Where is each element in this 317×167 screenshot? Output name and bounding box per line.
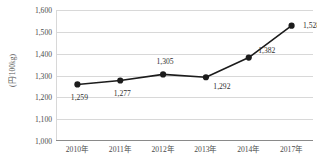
y-axis-tick-label: 1,600 <box>18 6 52 15</box>
x-axis-tick-label: 2013年 <box>194 143 217 154</box>
y-axis-tick-label: 1,200 <box>18 93 52 102</box>
data-point-marker <box>117 77 123 83</box>
y-axis-title-text: (円/100kg) <box>6 54 17 87</box>
x-axis-tick-label: 2014年 <box>237 143 260 154</box>
x-axis-tick-labels: 2010年2011年2012年2013年2014年2017年 <box>56 143 313 163</box>
data-point-label: 1,305 <box>157 57 174 66</box>
data-point-marker <box>160 71 166 77</box>
x-axis-tick-label: 2017年 <box>280 143 303 154</box>
series-polyline <box>77 26 291 85</box>
data-point-label: 1,259 <box>71 92 88 101</box>
data-point-marker <box>203 74 209 80</box>
x-axis-tick-label: 2010年 <box>66 143 89 154</box>
data-point-label: 1,528 <box>303 20 317 29</box>
y-axis-tick-label: 1,500 <box>18 27 52 36</box>
series-line <box>56 10 313 141</box>
y-axis-tick-label: 1,100 <box>18 115 52 124</box>
y-axis-tick-label: 1,000 <box>18 137 52 146</box>
y-axis-tick-label: 1,400 <box>18 49 52 58</box>
data-point-marker <box>246 55 252 61</box>
line-chart: (円/100kg) 1,6001,5001,4001,3001,2001,100… <box>0 0 317 167</box>
y-axis-tick-label: 1,300 <box>18 71 52 80</box>
x-axis-tick-label: 2011年 <box>109 143 132 154</box>
plot-area: 1,2591,2771,3051,2921,3821,528 <box>56 10 313 141</box>
data-point-label: 1,292 <box>213 82 230 91</box>
x-axis-tick-label: 2012年 <box>152 143 175 154</box>
data-point-label: 1,277 <box>114 88 131 97</box>
data-point-marker <box>74 81 80 87</box>
y-axis-tick-labels: 1,6001,5001,4001,3001,2001,1001,000 <box>18 0 52 167</box>
data-point-marker <box>288 23 294 29</box>
data-point-label: 1,382 <box>258 45 275 54</box>
